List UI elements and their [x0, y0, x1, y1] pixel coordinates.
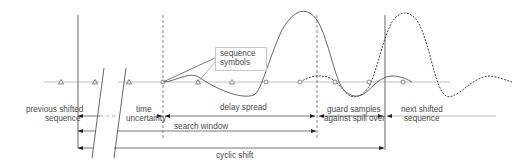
timing-diagram: sequence symbols previous shifted sequen… [0, 0, 528, 168]
next-shifted-label-2: sequence [404, 115, 440, 124]
callout-leader [163, 58, 215, 82]
search-window-label: search window [174, 123, 228, 132]
delay-spread-label: delay spread [220, 104, 267, 113]
callout-line-2: symbols [220, 59, 250, 68]
diagram-canvas [0, 0, 528, 168]
guard-samples-label-2: against spill over [324, 115, 385, 124]
previous-shifted-label-2: sequence [45, 115, 81, 124]
sequence-symbols-callout: sequence symbols [215, 47, 267, 71]
time-uncertainty-label-2: uncertainty [126, 115, 166, 124]
next-sequence-pulse [300, 13, 512, 97]
cyclic-shift-label: cyclic shift [216, 152, 253, 161]
